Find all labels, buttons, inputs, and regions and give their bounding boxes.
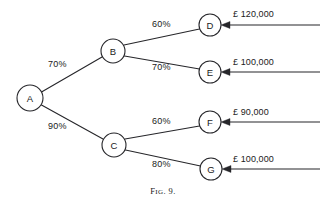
edge-label-c-f: 60% bbox=[152, 117, 171, 126]
node-a[interactable]: A bbox=[17, 85, 43, 111]
tree-diagram-canvas: A B C D E F G bbox=[0, 0, 326, 208]
payoff-arrowhead-d bbox=[221, 22, 230, 29]
node-a-label: A bbox=[27, 93, 34, 104]
payoff-label-e: £ 100,000 bbox=[233, 58, 274, 67]
figure-caption-number: . 9. bbox=[164, 186, 176, 196]
node-f-label: F bbox=[207, 117, 213, 128]
node-e[interactable]: E bbox=[199, 61, 221, 83]
node-b[interactable]: B bbox=[101, 39, 125, 63]
node-f[interactable]: F bbox=[199, 111, 221, 133]
figure-caption: FIG. 9. bbox=[0, 186, 326, 196]
edge-b-d bbox=[124, 29, 200, 45]
node-c[interactable]: C bbox=[102, 133, 126, 157]
decision-tree-figure: A B C D E F G 70% 90% 60% 70% 60% bbox=[0, 0, 326, 208]
node-c-label: C bbox=[111, 140, 118, 151]
edge-c-f bbox=[125, 126, 200, 139]
node-b-label: B bbox=[110, 46, 116, 57]
node-d[interactable]: D bbox=[199, 14, 221, 36]
figure-caption-smallcaps: IG bbox=[155, 188, 163, 196]
edge-label-a-b: 70% bbox=[48, 60, 67, 69]
node-g[interactable]: G bbox=[200, 158, 222, 180]
payoff-label-f: £ 90,000 bbox=[233, 108, 269, 117]
edge-label-b-d: 60% bbox=[152, 20, 171, 29]
payoff-label-d: £ 120,000 bbox=[233, 10, 274, 19]
edge-label-a-c: 90% bbox=[48, 122, 67, 131]
payoff-arrowhead-g bbox=[222, 166, 231, 173]
node-e-label: E bbox=[207, 67, 213, 78]
payoff-label-g: £ 100,000 bbox=[233, 155, 274, 164]
node-g-label: G bbox=[207, 164, 214, 175]
payoff-arrowhead-e bbox=[221, 69, 230, 76]
payoff-arrowhead-f bbox=[221, 119, 230, 126]
edge-label-b-e: 70% bbox=[152, 63, 171, 72]
edge-label-c-g: 80% bbox=[152, 160, 171, 169]
node-d-label: D bbox=[207, 20, 214, 31]
